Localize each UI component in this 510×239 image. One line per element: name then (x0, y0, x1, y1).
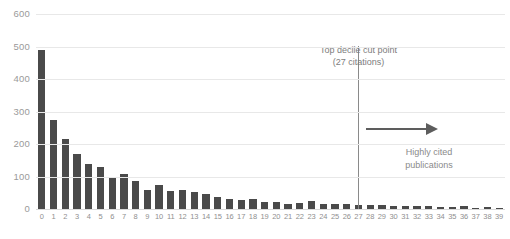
x-tick-label-0: 0 (36, 211, 48, 223)
bar (202, 194, 209, 209)
y-tick-label-200: 200 (0, 139, 30, 149)
bar (261, 202, 268, 209)
bar (226, 199, 233, 209)
x-tick-label-29: 29 (376, 211, 388, 223)
citation-distribution-chart: 0100200300400500600 01234567891011121314… (0, 0, 510, 239)
highly-cited-line2: publications (374, 159, 484, 172)
x-tick-label-33: 33 (423, 211, 435, 223)
gridline-300 (36, 112, 505, 113)
bar (308, 201, 315, 209)
x-tick-label-21: 21 (282, 211, 294, 223)
x-tick-label-12: 12 (177, 211, 189, 223)
bar (73, 154, 80, 209)
x-tick-label-4: 4 (83, 211, 95, 223)
x-tick-label-34: 34 (435, 211, 447, 223)
x-tick-label-11: 11 (165, 211, 177, 223)
x-tick-label-36: 36 (458, 211, 470, 223)
highly-cited-label: Highly cited publications (374, 146, 484, 172)
bar (97, 167, 104, 209)
bar (249, 199, 256, 209)
x-tick-label-16: 16 (224, 211, 236, 223)
x-tick-label-32: 32 (411, 211, 423, 223)
gridline-0 (36, 209, 505, 210)
y-tick-label-400: 400 (0, 74, 30, 84)
x-tick-label-17: 17 (235, 211, 247, 223)
bar (85, 164, 92, 209)
x-tick-label-9: 9 (142, 211, 154, 223)
bar (238, 200, 245, 209)
x-tick-label-3: 3 (71, 211, 83, 223)
x-tick-label-13: 13 (188, 211, 200, 223)
x-tick-label-7: 7 (118, 211, 130, 223)
x-tick-label-35: 35 (446, 211, 458, 223)
gridline-400 (36, 79, 505, 80)
x-tick-label-27: 27 (353, 211, 365, 223)
x-tick-label-30: 30 (388, 211, 400, 223)
x-tick-label-31: 31 (399, 211, 411, 223)
x-tick-label-26: 26 (341, 211, 353, 223)
bar (214, 197, 221, 209)
x-tick-label-18: 18 (247, 211, 259, 223)
x-tick-label-22: 22 (294, 211, 306, 223)
bar (191, 192, 198, 209)
highly-cited-arrow-icon (366, 122, 442, 136)
x-axis: 0123456789101112131415161718192021222324… (36, 211, 505, 227)
x-tick-label-15: 15 (212, 211, 224, 223)
bar (144, 190, 151, 210)
x-tick-label-10: 10 (153, 211, 165, 223)
bar (273, 202, 280, 209)
y-tick-label-100: 100 (0, 172, 30, 182)
x-tick-label-5: 5 (95, 211, 107, 223)
x-tick-label-8: 8 (130, 211, 142, 223)
bar (120, 174, 127, 209)
x-tick-label-19: 19 (259, 211, 271, 223)
bar (50, 120, 57, 209)
arrow-head (426, 123, 438, 135)
x-tick-label-14: 14 (200, 211, 212, 223)
bar (62, 139, 69, 209)
x-tick-label-6: 6 (106, 211, 118, 223)
top-decile-cut-line (358, 46, 359, 209)
gridline-500 (36, 47, 505, 48)
x-tick-label-1: 1 (48, 211, 60, 223)
gridline-200 (36, 144, 505, 145)
gridline-100 (36, 177, 505, 178)
y-tick-label-500: 500 (0, 42, 30, 52)
bar (132, 181, 139, 209)
arrow-shaft (366, 128, 428, 130)
x-tick-label-23: 23 (306, 211, 318, 223)
bar (109, 178, 116, 209)
x-tick-label-20: 20 (271, 211, 283, 223)
highly-cited-line1: Highly cited (374, 146, 484, 159)
gridline-600 (36, 14, 505, 15)
bar (167, 191, 174, 209)
y-tick-label-0: 0 (0, 204, 30, 214)
x-tick-label-25: 25 (329, 211, 341, 223)
x-tick-label-39: 39 (493, 211, 505, 223)
x-tick-label-28: 28 (364, 211, 376, 223)
y-tick-label-600: 600 (0, 9, 30, 19)
x-tick-label-24: 24 (317, 211, 329, 223)
x-tick-label-2: 2 (59, 211, 71, 223)
cut-point-label-line2: (27 citations) (288, 56, 428, 68)
y-tick-label-300: 300 (0, 107, 30, 117)
bar (155, 185, 162, 209)
bar (179, 190, 186, 209)
bar (38, 50, 45, 209)
x-tick-label-37: 37 (470, 211, 482, 223)
x-tick-label-38: 38 (482, 211, 494, 223)
